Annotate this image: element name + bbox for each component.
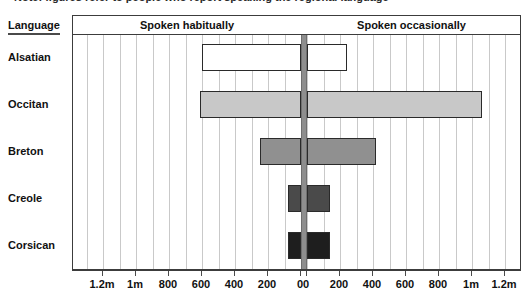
gridline-right-1200 bbox=[505, 35, 506, 269]
language-label-column: Language Alsatian Occitan Breton Creole … bbox=[0, 9, 72, 271]
gridline-minor-right-900 bbox=[456, 35, 457, 269]
tick-left-400 bbox=[234, 271, 235, 276]
center-divider bbox=[301, 35, 307, 269]
tick-right-1000 bbox=[471, 271, 472, 276]
row-label-creole: Creole bbox=[8, 192, 42, 204]
clipped-caption-text: Note: figures refer to people who report… bbox=[14, 0, 389, 3]
clipped-caption: Note: figures refer to people who report… bbox=[0, 0, 528, 9]
tick-right-200 bbox=[339, 271, 340, 276]
tick-left-0 bbox=[300, 271, 301, 276]
tick-right-800 bbox=[438, 271, 439, 276]
tick-label-right-1000: 1m bbox=[463, 278, 479, 290]
tick-right-1200 bbox=[504, 271, 505, 276]
tick-label-left-1200: 1.2m bbox=[89, 278, 114, 290]
gridline-minor-left-700 bbox=[186, 35, 187, 269]
bar-occasionally-breton bbox=[307, 138, 376, 165]
row-label-breton: Breton bbox=[8, 145, 43, 157]
row-label-occitan: Occitan bbox=[8, 98, 48, 110]
tick-label-right-1200: 1.2m bbox=[491, 278, 516, 290]
bar-habitually-occitan bbox=[200, 91, 301, 118]
panel-title-occasionally: Spoken occasionally bbox=[301, 19, 522, 31]
gridline-minor-left-1100 bbox=[120, 35, 121, 269]
row-label-alsatian: Alsatian bbox=[8, 51, 51, 63]
tick-label-right-800: 800 bbox=[429, 278, 447, 290]
tick-label-left-600: 600 bbox=[192, 278, 210, 290]
tick-label-left-800: 800 bbox=[159, 278, 177, 290]
tick-right-600 bbox=[405, 271, 406, 276]
tick-label-right-200: 200 bbox=[330, 278, 348, 290]
tick-left-600 bbox=[201, 271, 202, 276]
bar-habitually-breton bbox=[260, 138, 301, 165]
bar-occasionally-corsican bbox=[307, 232, 330, 259]
plot-area bbox=[72, 35, 521, 271]
row-label-corsican: Corsican bbox=[8, 239, 55, 251]
tick-left-1000 bbox=[135, 271, 136, 276]
gridline-minor-right-1100 bbox=[489, 35, 490, 269]
tick-label-right-400: 400 bbox=[363, 278, 381, 290]
tick-right-400 bbox=[372, 271, 373, 276]
bar-occasionally-alsatian bbox=[307, 44, 347, 71]
chart-root: Language Alsatian Occitan Breton Creole … bbox=[0, 9, 528, 299]
panel-header-band: Spoken habitually Spoken occasionally bbox=[72, 15, 521, 35]
gridline-minor-left-900 bbox=[153, 35, 154, 269]
gridline-minor-right-700 bbox=[423, 35, 424, 269]
bar-occasionally-creole bbox=[307, 185, 330, 212]
tick-right-0 bbox=[306, 271, 307, 276]
bar-habitually-corsican bbox=[288, 232, 301, 259]
tick-left-200 bbox=[267, 271, 268, 276]
bar-habitually-creole bbox=[288, 185, 301, 212]
tick-label-left-200: 200 bbox=[258, 278, 276, 290]
gridline-minor-left-1300 bbox=[87, 35, 88, 269]
gridline-left-800 bbox=[169, 35, 170, 269]
gridline-left-1000 bbox=[136, 35, 137, 269]
language-column-header: Language bbox=[8, 19, 60, 35]
tick-label-left-400: 400 bbox=[225, 278, 243, 290]
tick-label-right-0: 0 bbox=[303, 278, 309, 290]
bar-occasionally-occitan bbox=[307, 91, 482, 118]
gridline-left-1200 bbox=[103, 35, 104, 269]
gridline-right-1000 bbox=[472, 35, 473, 269]
tick-label-right-600: 600 bbox=[396, 278, 414, 290]
gridline-minor-right-500 bbox=[390, 35, 391, 269]
gridline-right-600 bbox=[406, 35, 407, 269]
bar-habitually-alsatian bbox=[202, 44, 301, 71]
tick-left-1200 bbox=[102, 271, 103, 276]
tick-left-800 bbox=[168, 271, 169, 276]
panel-title-habitually: Spoken habitually bbox=[73, 19, 301, 31]
gridline-right-800 bbox=[439, 35, 440, 269]
x-axis: 002002004004006006008008001m1m1.2m1.2m bbox=[72, 271, 521, 299]
tick-label-left-1000: 1m bbox=[127, 278, 143, 290]
